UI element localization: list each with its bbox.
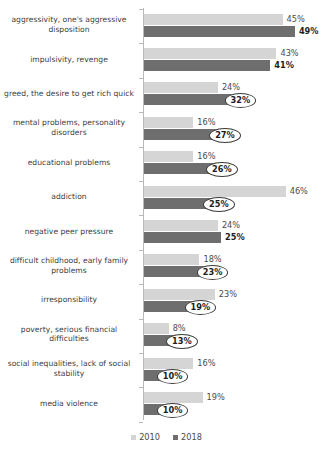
bar-2010[interactable] xyxy=(144,117,193,128)
value-label-2010: 24% xyxy=(222,220,240,231)
bar-chart: aggressivity, one's aggressive dispositi… xyxy=(0,0,333,457)
bar-2010[interactable] xyxy=(144,186,286,197)
value-callout-2018: 23% xyxy=(197,265,229,280)
category-label: difficult childhood, early family proble… xyxy=(0,256,138,275)
value-label-2010: 46% xyxy=(290,186,308,197)
chart-row: poverty, serious financial difficulties8… xyxy=(0,318,333,352)
category-label: aggressivity, one's aggressive dispositi… xyxy=(0,16,138,35)
category-label: educational problems xyxy=(0,158,138,168)
value-label-2018: 49% xyxy=(299,26,319,37)
chart-row: social inequalities, lack of social stab… xyxy=(0,352,333,386)
bar-2010[interactable] xyxy=(144,151,193,162)
category-label: addiction xyxy=(0,192,138,202)
value-label-2018: 41% xyxy=(274,60,294,71)
chart-legend: 2010 2018 xyxy=(0,432,333,442)
value-callout-2018: 13% xyxy=(166,334,198,349)
axis-tick xyxy=(139,422,143,423)
bar-2018[interactable] xyxy=(144,232,221,243)
chart-row: mental problems, personality disorders16… xyxy=(0,111,333,145)
plot-area: aggressivity, one's aggressive dispositi… xyxy=(0,0,333,424)
chart-row: educational problems16%26% xyxy=(0,146,333,180)
chart-row: difficult childhood, early family proble… xyxy=(0,249,333,283)
value-callout-2018: 10% xyxy=(157,369,189,384)
bar-2010[interactable] xyxy=(144,392,203,403)
chart-row: addiction46%25% xyxy=(0,180,333,214)
chart-row: impulsivity, revenge43%41% xyxy=(0,42,333,76)
value-callout-2018: 26% xyxy=(206,162,238,177)
category-label: impulsivity, revenge xyxy=(0,55,138,65)
category-label: irresponsibility xyxy=(0,296,138,306)
bar-2010[interactable] xyxy=(144,14,283,25)
bar-2010[interactable] xyxy=(144,358,193,369)
category-label: poverty, serious financial difficulties xyxy=(0,325,138,344)
value-label-2010: 43% xyxy=(280,48,298,59)
category-label: mental problems, personality disorders xyxy=(0,119,138,138)
category-label: greed, the desire to get rich quick xyxy=(0,89,138,99)
bar-2010[interactable] xyxy=(144,323,169,334)
bar-2010[interactable] xyxy=(144,289,215,300)
category-label: negative peer pressure xyxy=(0,227,138,237)
bar-2010[interactable] xyxy=(144,254,199,265)
value-label-2010: 18% xyxy=(203,254,221,265)
legend-swatch-2010-icon xyxy=(131,435,136,440)
bar-2010[interactable] xyxy=(144,48,276,59)
value-label-2010: 24% xyxy=(222,82,240,93)
value-callout-2018: 25% xyxy=(203,197,235,212)
value-label-2010: 23% xyxy=(219,289,237,300)
value-label-2010: 16% xyxy=(197,151,215,162)
value-callout-2018: 10% xyxy=(157,403,189,418)
value-label-2010: 16% xyxy=(197,117,215,128)
chart-row: negative peer pressure24%25% xyxy=(0,214,333,248)
value-callout-2018: 32% xyxy=(225,93,257,108)
value-label-2010: 8% xyxy=(173,323,186,334)
chart-row: aggressivity, one's aggressive dispositi… xyxy=(0,8,333,42)
bar-2010[interactable] xyxy=(144,220,218,231)
category-label: social inequalities, lack of social stab… xyxy=(0,360,138,379)
legend-swatch-2018-icon xyxy=(173,435,178,440)
value-label-2010: 45% xyxy=(287,14,305,25)
value-callout-2018: 19% xyxy=(185,300,217,315)
bar-2010[interactable] xyxy=(144,82,218,93)
value-label-2010: 19% xyxy=(207,392,225,403)
legend-label-2018: 2018 xyxy=(181,432,202,442)
value-callout-2018: 27% xyxy=(209,128,241,143)
bar-2018[interactable] xyxy=(144,26,295,37)
value-label-2010: 16% xyxy=(197,358,215,369)
bar-2018[interactable] xyxy=(144,60,270,71)
legend-label-2010: 2010 xyxy=(139,432,160,442)
legend-item-2018[interactable]: 2018 xyxy=(173,432,202,442)
chart-row: media violence19%10% xyxy=(0,386,333,420)
chart-row: greed, the desire to get rich quick24%32… xyxy=(0,77,333,111)
legend-item-2010[interactable]: 2010 xyxy=(131,432,160,442)
value-label-2018: 25% xyxy=(225,232,245,243)
chart-row: irresponsibility23%19% xyxy=(0,283,333,317)
category-label: media violence xyxy=(0,399,138,409)
